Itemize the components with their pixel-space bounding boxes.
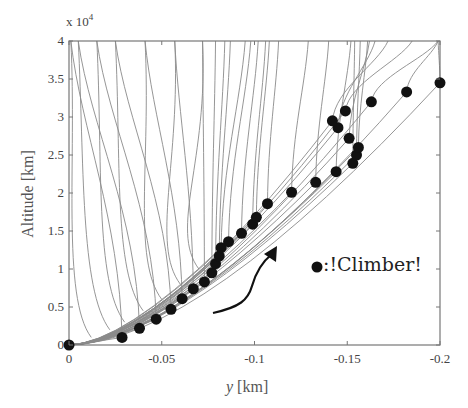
- climber-marker: [353, 142, 364, 153]
- ribbon-curve: [144, 41, 161, 299]
- x-tick-label: -0.1: [244, 351, 265, 366]
- legend: :!Climber!: [312, 253, 422, 275]
- ribbon-curves: [69, 41, 440, 345]
- y-tick-label: 0: [58, 337, 65, 352]
- climber-marker: [151, 314, 162, 325]
- climber-marker: [340, 105, 351, 116]
- climber-marker: [327, 115, 338, 126]
- climber-marker: [331, 166, 342, 177]
- ribbon-curve: [69, 41, 156, 345]
- y-tick-label: 3.5: [48, 71, 64, 86]
- climber-marker: [188, 283, 199, 294]
- ribbon-curve: [71, 41, 91, 337]
- ribbon-curve: [69, 41, 139, 345]
- y-tick-label: 1.5: [48, 223, 64, 238]
- legend-label: :!Climber!: [323, 253, 422, 275]
- ribbon-curve: [69, 41, 245, 345]
- climber-marker: [310, 177, 321, 188]
- climber-marker: [199, 276, 210, 287]
- x-tick-label: -0.2: [430, 351, 451, 366]
- ribbon-curve: [69, 41, 230, 345]
- climber-marker: [262, 198, 273, 209]
- climber-marker: [117, 332, 128, 343]
- climber-marker: [286, 187, 297, 198]
- ribbon-curve: [69, 41, 216, 345]
- y-tick-label: 2.5: [48, 147, 64, 162]
- x-tick-label: -0.15: [334, 351, 361, 366]
- climber-marker: [366, 96, 377, 107]
- ribbon-curve: [69, 41, 351, 345]
- climber-marker: [177, 293, 188, 304]
- ribbon-curve: [69, 41, 375, 345]
- y-axis-label: Altitude [km]: [19, 150, 36, 238]
- ribbon-curve: [97, 41, 125, 322]
- climber-marker: [344, 133, 355, 144]
- climber-marker: [134, 323, 145, 334]
- ribbon-curve: [115, 41, 143, 311]
- climber-marker: [223, 236, 234, 247]
- axis-ticks: 0-0.05-0.1-0.15-0.200.511.522.533.54: [48, 33, 451, 366]
- chart: 0-0.05-0.1-0.15-0.200.511.522.533.54 x 1…: [0, 0, 468, 408]
- legend-marker-icon: [312, 262, 323, 273]
- x-tick-label: 0: [66, 351, 73, 366]
- climber-marker: [166, 304, 177, 315]
- climber-marker: [251, 212, 262, 223]
- ribbon-curve: [69, 41, 412, 345]
- climber-marker: [401, 86, 412, 97]
- ribbon-curve: [69, 41, 225, 345]
- y-tick-label: 3: [58, 109, 65, 124]
- y-tick-label: 0.5: [48, 299, 64, 314]
- y-tick-label: 4: [58, 33, 65, 48]
- x-tick-label: -0.05: [148, 351, 175, 366]
- x-axis-label: y [km]: [224, 378, 268, 396]
- climber-marker: [236, 228, 247, 239]
- y-exponent-label: x 104: [66, 12, 94, 29]
- y-tick-label: 1: [58, 261, 65, 276]
- y-tick-label: 2: [58, 185, 65, 200]
- ribbon-curve: [188, 41, 204, 269]
- ribbon-curve: [167, 41, 180, 284]
